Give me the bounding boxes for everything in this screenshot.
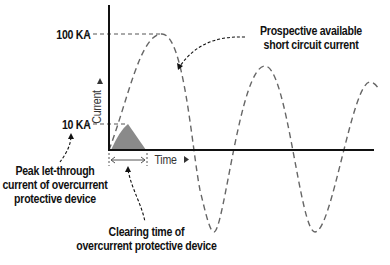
prospective-current-wave xyxy=(109,34,378,232)
y-axis-label: Current xyxy=(90,90,104,123)
peak-leader xyxy=(60,137,71,162)
clearing-time-annotation: Clearing time of overcurrent protective … xyxy=(76,225,217,253)
peak-let-through-annotation: Peak let-through current of overcurrent … xyxy=(0,164,110,206)
clearing-leader xyxy=(128,170,145,222)
y-tick-10ka: 10 KA xyxy=(62,118,91,132)
x-axis-label: Time xyxy=(155,153,177,167)
time-arrow-icon xyxy=(184,156,189,163)
y-tick-100ka: 100 KA xyxy=(56,28,90,42)
prospective-leader xyxy=(180,37,245,66)
arrow-head-icon xyxy=(125,166,131,172)
current-arrow-icon xyxy=(97,78,103,84)
prospective-annotation: Prospective available short circuit curr… xyxy=(245,24,377,52)
arrow-head-icon xyxy=(68,133,74,139)
